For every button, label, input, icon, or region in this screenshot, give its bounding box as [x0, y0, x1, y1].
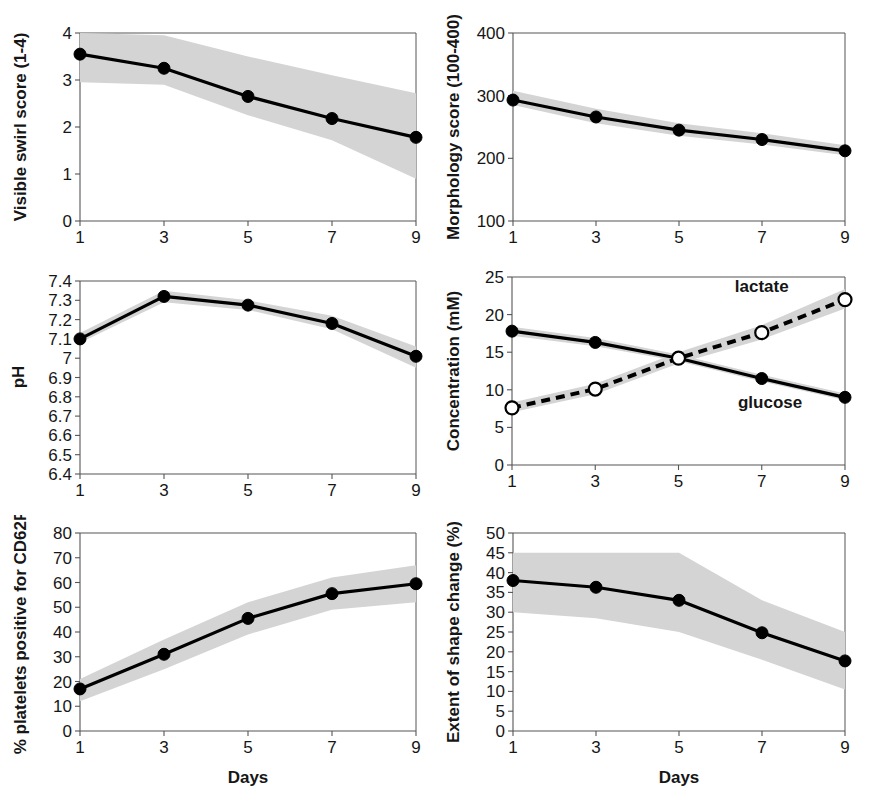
y-tick-label: 300	[477, 87, 505, 106]
x-axis: 13579	[508, 731, 849, 757]
data-point-lactate	[506, 401, 519, 414]
data-point-lactate	[589, 383, 602, 396]
data-point--platelets-positive-for-cd62p	[410, 578, 422, 590]
y-tick-label: 0	[63, 212, 72, 231]
x-tick-label: 1	[507, 472, 516, 491]
x-tick-label: 9	[840, 738, 849, 757]
x-tick-label: 7	[757, 738, 766, 757]
x-axis-title: Days	[228, 768, 269, 787]
y-axis-title: Morphology score (100-400)	[444, 14, 463, 240]
x-axis: 13579	[75, 731, 420, 757]
y-tick-label: 6.4	[48, 465, 72, 484]
data-point-extent-of-shape-change	[673, 594, 685, 606]
y-tick-label: 10	[485, 381, 504, 400]
x-tick-label: 9	[840, 472, 849, 491]
data-point-visible-swirl-score	[410, 131, 422, 143]
data-point--platelets-positive-for-cd62p	[326, 588, 338, 600]
y-axis-title: % platelets positive for CD62P	[11, 515, 30, 754]
x-axis: 13579	[508, 221, 849, 247]
data-point-glucose	[756, 373, 768, 385]
y-tick-label: 0	[63, 722, 72, 741]
y-axis-title: Concentration (mM)	[444, 291, 463, 452]
y-tick-label: 25	[485, 268, 504, 287]
x-tick-label: 9	[411, 228, 420, 247]
data-point-lactate	[672, 352, 685, 365]
x-axis: 13579	[75, 474, 420, 500]
chart-extent-shape-change: 0510152025303540455013579Extent of shape…	[435, 515, 870, 797]
y-axis: 05101520253035404550	[486, 524, 513, 741]
panel-morphology-score: 10020030040013579Morphology score (100-4…	[435, 0, 870, 265]
y-tick-label: 20	[53, 673, 72, 692]
y-tick-label: 6.8	[48, 388, 72, 407]
panel-cd62p-positive: 0102030405060708013579% platelets positi…	[0, 515, 435, 797]
data-point-morphology-score	[590, 111, 602, 123]
x-tick-label: 1	[75, 481, 84, 500]
y-tick-label: 5	[495, 418, 504, 437]
x-tick-label: 3	[159, 228, 168, 247]
x-tick-label: 3	[591, 738, 600, 757]
band-visible-swirl-score	[80, 33, 416, 179]
x-tick-label: 3	[159, 481, 168, 500]
y-tick-label: 7.1	[48, 330, 72, 349]
panel-ph: 6.46.56.66.76.86.977.17.27.37.413579pH	[0, 265, 435, 515]
chart-visible-swirl-score: 0123413579Visible swirl score (1-4)	[0, 0, 435, 265]
y-tick-label: 20	[485, 306, 504, 325]
data-point-ph	[74, 333, 86, 345]
y-tick-label: 50	[486, 524, 505, 543]
series-annotation-lactate: lactate	[735, 277, 789, 296]
x-tick-label: 9	[840, 228, 849, 247]
data-point-extent-of-shape-change	[839, 655, 851, 667]
y-tick-label: 7.4	[48, 272, 72, 291]
y-tick-label: 400	[477, 24, 505, 43]
y-axis: 100200300400	[477, 24, 513, 231]
x-tick-label: 5	[674, 738, 683, 757]
panel-visible-swirl-score: 0123413579Visible swirl score (1-4)	[0, 0, 435, 265]
y-axis-title: Extent of shape change (%)	[444, 521, 463, 743]
band--platelets-positive-for-cd62p	[80, 565, 416, 701]
x-tick-label: 9	[411, 738, 420, 757]
y-tick-label: 15	[485, 343, 504, 362]
x-tick-label: 9	[411, 481, 420, 500]
data-point-morphology-score	[756, 134, 768, 146]
x-tick-label: 7	[327, 228, 336, 247]
y-tick-label: 70	[53, 549, 72, 568]
x-tick-label: 3	[591, 228, 600, 247]
y-tick-label: 25	[486, 623, 505, 642]
y-tick-label: 6.9	[48, 369, 72, 388]
y-tick-label: 200	[477, 149, 505, 168]
x-tick-label: 3	[591, 472, 600, 491]
y-tick-label: 1	[63, 165, 72, 184]
x-tick-label: 1	[75, 738, 84, 757]
data-point-lactate	[755, 326, 768, 339]
y-tick-label: 4	[63, 24, 72, 43]
y-tick-label: 30	[53, 648, 72, 667]
x-tick-label: 7	[757, 472, 766, 491]
y-tick-label: 10	[53, 697, 72, 716]
x-axis-title: Days	[659, 768, 700, 787]
x-axis: 13579	[75, 221, 420, 247]
x-tick-label: 5	[674, 228, 683, 247]
data-point-glucose	[589, 336, 601, 348]
x-tick-label: 5	[243, 481, 252, 500]
y-tick-label: 3	[63, 71, 72, 90]
data-point--platelets-positive-for-cd62p	[74, 683, 86, 695]
y-tick-label: 60	[53, 574, 72, 593]
band-extent-of-shape-change	[513, 553, 845, 690]
x-tick-label: 1	[508, 738, 517, 757]
y-tick-label: 40	[486, 564, 505, 583]
y-tick-label: 7.3	[48, 291, 72, 310]
x-tick-label: 7	[327, 738, 336, 757]
chart-cd62p-positive: 0102030405060708013579% platelets positi…	[0, 515, 435, 797]
data-point-extent-of-shape-change	[756, 627, 768, 639]
panel-extent-shape-change: 0510152025303540455013579Extent of shape…	[435, 515, 870, 797]
figure-panel-grid: 0123413579Visible swirl score (1-4) 1002…	[0, 0, 870, 797]
y-tick-label: 6.7	[48, 407, 72, 426]
y-tick-label: 20	[486, 643, 505, 662]
data-point-extent-of-shape-change	[507, 575, 519, 587]
y-axis-title: pH	[9, 366, 28, 389]
x-tick-label: 1	[508, 228, 517, 247]
x-tick-label: 1	[75, 228, 84, 247]
y-tick-label: 45	[486, 544, 505, 563]
x-tick-label: 5	[243, 228, 252, 247]
y-tick-label: 35	[486, 583, 505, 602]
